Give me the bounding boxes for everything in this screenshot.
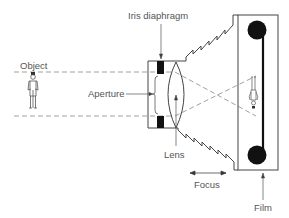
label-object: Object	[20, 61, 47, 71]
film-spool-bottom	[248, 146, 267, 165]
bellows-bottom	[178, 128, 238, 170]
label-iris-diaphragm: Iris diaphragm	[128, 11, 188, 21]
bellows-top	[178, 15, 238, 61]
label-aperture: Aperture	[88, 89, 124, 99]
label-lens: Lens	[164, 150, 185, 160]
iris-blade-top	[157, 61, 164, 74]
label-focus: Focus	[194, 180, 220, 190]
image-figure	[249, 77, 258, 109]
aperture-bracket	[153, 76, 158, 114]
iris-blade-bottom	[157, 116, 164, 128]
focus-arrow-icon	[190, 171, 226, 175]
object-figure	[28, 72, 38, 108]
label-film: Film	[254, 203, 272, 213]
camera-diagram: Iris diaphragm Object Aperture Lens Focu…	[0, 0, 289, 218]
film-spool-top	[248, 21, 267, 40]
